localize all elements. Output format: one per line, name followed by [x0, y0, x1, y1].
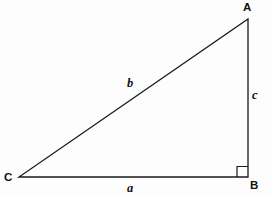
- side-label-a: a: [127, 182, 133, 195]
- vertex-label-c: C: [4, 172, 12, 184]
- triangle-outline: [19, 19, 248, 177]
- right-angle-marker-icon: [237, 167, 248, 178]
- triangle-drawing: [0, 0, 271, 198]
- right-triangle-diagram: A B C a b c: [0, 0, 271, 198]
- side-label-b: b: [127, 77, 133, 90]
- vertex-label-b: B: [250, 180, 258, 192]
- vertex-label-a: A: [243, 2, 251, 14]
- side-label-c: c: [252, 89, 258, 102]
